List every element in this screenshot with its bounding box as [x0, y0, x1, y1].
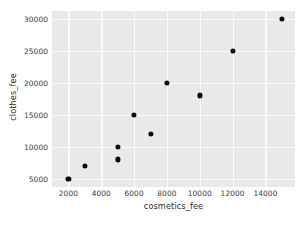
gridline-horizontal: [52, 179, 295, 180]
x-tick-label: 6000: [124, 189, 143, 198]
y-tick-label: 10000: [24, 142, 48, 151]
scatter-chart-figure: 50001000015000200002500030000 2000400060…: [0, 0, 305, 225]
x-tick-label: 10000: [188, 189, 212, 198]
y-tick-label: 20000: [24, 78, 48, 87]
x-tick-label: 4000: [92, 189, 111, 198]
data-point: [230, 48, 235, 53]
plot-panel: [52, 11, 295, 187]
y-tick-label: 30000: [24, 14, 48, 23]
data-point: [148, 131, 153, 136]
gridline-horizontal: [52, 19, 295, 20]
y-axis-title: clothes_fee: [8, 42, 18, 152]
gridline-vertical: [134, 11, 135, 187]
x-tick-label: 8000: [157, 189, 176, 198]
data-point: [197, 93, 202, 98]
y-tick-label: 25000: [24, 46, 48, 55]
gridline-horizontal: [52, 83, 295, 84]
y-tick-label: 15000: [24, 110, 48, 119]
x-tick-label: 2000: [59, 189, 78, 198]
gridline-horizontal: [52, 115, 295, 116]
x-axis-title: cosmetics_fee: [52, 201, 295, 211]
data-point: [115, 157, 120, 162]
x-tick-label: 14000: [253, 189, 277, 198]
x-tick-label: 12000: [221, 189, 245, 198]
y-tick-label: 5000: [29, 174, 48, 183]
gridline-vertical: [265, 11, 266, 187]
data-point: [66, 176, 71, 181]
data-point: [279, 16, 284, 21]
data-point: [132, 112, 137, 117]
gridline-vertical: [101, 11, 102, 187]
gridline-vertical: [200, 11, 201, 187]
data-point: [164, 80, 169, 85]
gridline-vertical: [167, 11, 168, 187]
data-point: [115, 144, 120, 149]
gridline-horizontal: [52, 147, 295, 148]
gridline-vertical: [233, 11, 234, 187]
gridline-vertical: [68, 11, 69, 187]
gridline-horizontal: [52, 51, 295, 52]
data-point: [82, 163, 87, 168]
